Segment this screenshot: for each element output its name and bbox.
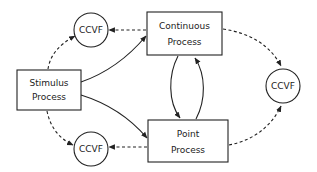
ccvf-top-left-node: CCVF <box>74 13 108 47</box>
continuous-label-line1: Continuous <box>159 21 210 31</box>
ccvf-right-node: CCVF <box>266 69 300 103</box>
point-process-node: Point Process <box>148 120 228 162</box>
edge-continuous-to-point <box>171 56 180 118</box>
edge-continuous-to-ccvf-right <box>223 29 281 66</box>
ccvf-bottom-left-node: CCVF <box>74 132 108 166</box>
point-label-line2: Process <box>171 145 205 155</box>
stimulus-process-node: Stimulus Process <box>17 70 81 110</box>
ccvf-top-left-label: CCVF <box>79 25 103 35</box>
ccvf-right-label: CCVF <box>271 81 295 91</box>
stimulus-label-line1: Stimulus <box>29 78 68 88</box>
edge-point-to-ccvf-right <box>229 106 281 145</box>
stimulus-label-line2: Process <box>32 92 66 102</box>
edge-point-to-continuous <box>195 58 203 119</box>
point-label-line1: Point <box>177 129 200 139</box>
ccvf-bottom-left-label: CCVF <box>79 144 103 154</box>
edge-stimulus-to-ccvf-top-left <box>48 36 75 69</box>
continuous-process-node: Continuous Process <box>147 12 222 55</box>
continuous-label-line2: Process <box>167 37 201 47</box>
diagram-canvas: Stimulus Process Continuous Process Poin… <box>0 0 317 172</box>
edge-stimulus-to-ccvf-bottom-left <box>47 111 73 145</box>
